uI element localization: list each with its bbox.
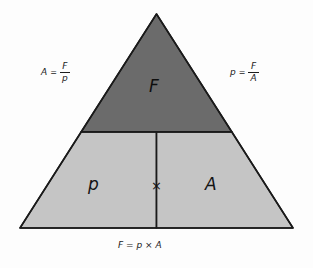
triangle-graphic — [0, 0, 313, 268]
triangle-top-region — [81, 14, 232, 132]
formula-pressure-equals: = — [238, 69, 247, 77]
formula-area-fraction: F p — [60, 62, 70, 83]
formula-pressure-lhs: p — [230, 68, 236, 77]
formula-area-equals: = — [49, 69, 58, 77]
region-label-area: A — [205, 176, 217, 193]
region-label-pressure: p — [88, 176, 99, 193]
formula-area-denominator: p — [60, 73, 70, 83]
formula-area-lhs: A — [41, 68, 47, 77]
pressure-triangle-diagram: F p A × A = F p p = F A F = p × A — [0, 0, 313, 268]
multiplication-operator-icon: × — [151, 179, 162, 192]
formula-pressure: p = F A — [230, 62, 259, 83]
formula-area-numerator: F — [60, 62, 69, 72]
formula-pressure-fraction: F A — [248, 62, 258, 83]
formula-force: F = p × A — [118, 241, 162, 250]
triangle-bottom-right-region — [157, 132, 294, 228]
formula-area: A = F p — [41, 62, 70, 83]
formula-pressure-denominator: A — [248, 73, 258, 83]
formula-pressure-numerator: F — [249, 62, 258, 72]
region-label-force: F — [149, 78, 159, 95]
